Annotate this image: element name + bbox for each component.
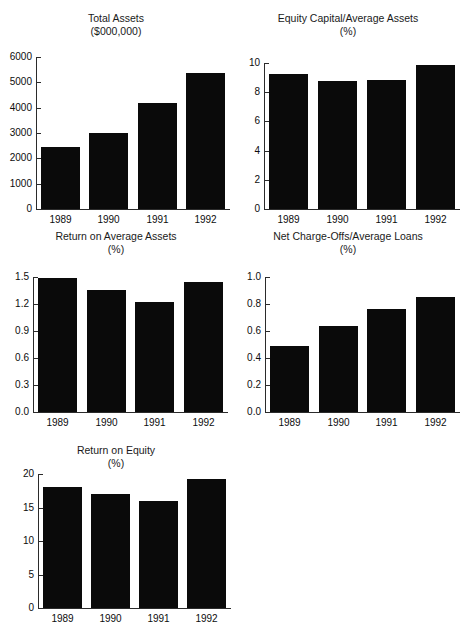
y-axis-tick-label: 8 bbox=[254, 87, 260, 97]
chart-panel-return-on-average-assets: Return on Average Assets (%) 0.00.30.60.… bbox=[0, 226, 232, 440]
y-axis-tick-label: 0.0 bbox=[15, 407, 29, 417]
x-axis-category-label: 1991 bbox=[139, 613, 178, 624]
y-axis-tick-label: 10 bbox=[23, 536, 34, 546]
y-axis-tick-label: 0.0 bbox=[247, 407, 261, 417]
bar bbox=[367, 309, 406, 412]
chart-title-line1: Total Assets bbox=[88, 12, 144, 24]
x-axis-category-label: 1990 bbox=[91, 613, 130, 624]
chart-title-line2: ($000,000) bbox=[0, 25, 232, 38]
bar bbox=[91, 494, 130, 608]
y-axis-tick bbox=[266, 331, 270, 332]
y-axis-line bbox=[265, 277, 266, 412]
bar bbox=[270, 346, 309, 412]
y-axis-tick-label: 5 bbox=[28, 570, 34, 580]
x-axis-category-label: 1991 bbox=[367, 214, 406, 225]
y-axis-tick-label: 4 bbox=[254, 146, 260, 156]
bar bbox=[319, 326, 358, 412]
chart-panel-total-assets: Total Assets ($000,000) 0100020003000400… bbox=[0, 6, 232, 220]
y-axis-tick-label: 1.5 bbox=[15, 272, 29, 282]
y-axis-tick-label: 1.2 bbox=[15, 299, 29, 309]
chart-title-return-on-equity: Return on Equity (%) bbox=[0, 444, 232, 470]
chart-panel-equity-capital-average-assets: Equity Capital/Average Assets (%) 024681… bbox=[232, 6, 464, 220]
chart-title-return-on-average-assets: Return on Average Assets (%) bbox=[0, 230, 232, 256]
x-axis-category-label: 1990 bbox=[87, 417, 126, 428]
y-axis-tick-label: 0 bbox=[28, 603, 34, 613]
bar bbox=[135, 302, 174, 412]
x-axis-category-label: 1989 bbox=[43, 613, 82, 624]
y-axis-tick-label: 4000 bbox=[10, 103, 32, 113]
y-axis-tick bbox=[37, 108, 41, 109]
y-axis-tick-label: 1000 bbox=[10, 179, 32, 189]
x-axis-category-label: 1989 bbox=[38, 417, 77, 428]
y-axis-tick-label: 0.9 bbox=[15, 326, 29, 336]
x-axis-category-label: 1992 bbox=[184, 417, 223, 428]
y-axis-tick-label: 0.4 bbox=[247, 353, 261, 363]
x-axis-category-label: 1991 bbox=[138, 214, 177, 225]
chart-title-line2: (%) bbox=[232, 25, 464, 38]
y-axis-tick-label: 0.6 bbox=[247, 326, 261, 336]
y-axis-tick-label: 6000 bbox=[10, 52, 32, 62]
bar bbox=[87, 290, 126, 412]
bar bbox=[184, 282, 223, 412]
x-axis-category-label: 1989 bbox=[269, 214, 308, 225]
y-axis-tick bbox=[39, 608, 43, 609]
y-axis-line bbox=[33, 277, 34, 412]
bar bbox=[41, 147, 80, 209]
chart-panel-net-charge-offs-average-loans: Net Charge-Offs/Average Loans (%) 0.00.2… bbox=[232, 226, 464, 440]
y-axis-tick bbox=[37, 57, 41, 58]
x-axis-line bbox=[36, 209, 230, 210]
y-axis-tick-label: 0.6 bbox=[15, 353, 29, 363]
bar bbox=[186, 73, 225, 209]
bar bbox=[89, 133, 128, 209]
y-axis-tick bbox=[39, 474, 43, 475]
y-axis-line bbox=[264, 63, 265, 209]
bar bbox=[269, 74, 308, 209]
y-axis-tick-label: 6 bbox=[254, 116, 260, 126]
x-axis-category-label: 1992 bbox=[416, 417, 455, 428]
bar bbox=[367, 80, 406, 209]
y-axis-tick bbox=[37, 209, 41, 210]
x-axis-category-label: 1992 bbox=[416, 214, 455, 225]
y-axis-tick-label: 10 bbox=[249, 58, 260, 68]
y-axis-tick-label: 15 bbox=[23, 503, 34, 513]
y-axis-tick bbox=[265, 209, 269, 210]
chart-title-equity-capital-average-assets: Equity Capital/Average Assets (%) bbox=[232, 12, 464, 38]
x-axis-category-label: 1989 bbox=[41, 214, 80, 225]
x-axis-category-label: 1990 bbox=[318, 214, 357, 225]
plot-area-net-charge-offs-average-loans: 0.00.20.40.60.81.01989199019911992 bbox=[265, 277, 460, 412]
y-axis-tick bbox=[266, 277, 270, 278]
plot-area-return-on-equity: 051015201989199019911992 bbox=[38, 474, 231, 608]
chart-title-line1: Net Charge-Offs/Average Loans bbox=[273, 230, 423, 242]
y-axis-tick-label: 20 bbox=[23, 469, 34, 479]
x-axis-category-label: 1989 bbox=[270, 417, 309, 428]
x-axis-category-label: 1991 bbox=[367, 417, 406, 428]
bar bbox=[38, 278, 77, 412]
bar bbox=[416, 65, 455, 209]
y-axis-tick-label: 0.8 bbox=[247, 299, 261, 309]
plot-area-return-on-average-assets: 0.00.30.60.91.21.51989199019911992 bbox=[33, 277, 228, 412]
bar bbox=[187, 479, 226, 608]
chart-title-line2: (%) bbox=[0, 243, 232, 256]
x-axis-line bbox=[264, 209, 460, 210]
y-axis-tick bbox=[37, 82, 41, 83]
figure-page: { "figure": { "categories": ["1989", "19… bbox=[0, 0, 464, 636]
x-axis-category-label: 1992 bbox=[186, 214, 225, 225]
bar bbox=[139, 501, 178, 608]
y-axis-tick bbox=[37, 133, 41, 134]
x-axis-category-label: 1992 bbox=[187, 613, 226, 624]
x-axis-line bbox=[33, 412, 228, 413]
y-axis-tick-label: 0.3 bbox=[15, 380, 29, 390]
y-axis-tick bbox=[34, 412, 38, 413]
chart-title-line2: (%) bbox=[232, 243, 464, 256]
bar bbox=[318, 81, 357, 209]
y-axis-tick bbox=[266, 412, 270, 413]
plot-area-total-assets: 0100020003000400050006000198919901991199… bbox=[36, 57, 230, 209]
x-axis-category-label: 1991 bbox=[135, 417, 174, 428]
chart-title-line2: (%) bbox=[0, 457, 232, 470]
bar bbox=[43, 487, 82, 608]
chart-title-net-charge-offs-average-loans: Net Charge-Offs/Average Loans (%) bbox=[232, 230, 464, 256]
chart-title-line1: Equity Capital/Average Assets bbox=[278, 12, 418, 24]
y-axis-tick-label: 0.2 bbox=[247, 380, 261, 390]
y-axis-tick-label: 1.0 bbox=[247, 272, 261, 282]
y-axis-tick-label: 0 bbox=[254, 204, 260, 214]
